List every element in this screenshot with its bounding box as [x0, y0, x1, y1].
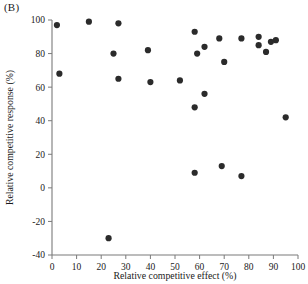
data-point — [192, 104, 198, 110]
figure-panel-b: (B) 0102030405060708090100-40-2002040608… — [0, 0, 308, 284]
y-tick-label: 0 — [40, 183, 45, 193]
data-point — [56, 71, 62, 77]
data-point — [201, 44, 207, 50]
scatter-plot: 0102030405060708090100-40-20020406080100… — [0, 0, 308, 284]
data-point — [147, 79, 153, 85]
data-point — [86, 19, 92, 25]
data-point — [177, 77, 183, 83]
x-tick-label: 10 — [72, 262, 82, 272]
data-point — [256, 42, 262, 48]
x-tick-label: 90 — [269, 262, 279, 272]
data-point — [115, 76, 121, 82]
data-point — [194, 50, 200, 56]
data-point — [283, 114, 289, 120]
data-point — [238, 173, 244, 179]
data-point — [192, 170, 198, 176]
data-point — [145, 47, 151, 53]
y-tick-label: 80 — [36, 49, 46, 59]
x-tick-label: 20 — [96, 262, 106, 272]
data-point — [216, 35, 222, 41]
y-axis-title: Relative competitive response (%) — [4, 70, 16, 205]
data-point — [238, 35, 244, 41]
data-point — [115, 20, 121, 26]
data-point — [54, 22, 60, 28]
data-point — [105, 235, 111, 241]
y-tick-label: 20 — [36, 150, 46, 160]
y-tick-label: 100 — [31, 15, 46, 25]
y-tick-label: -20 — [32, 217, 45, 227]
data-point — [219, 163, 225, 169]
data-point — [192, 29, 198, 35]
x-axis-title: Relative competitive effect (%) — [113, 270, 236, 282]
data-point — [256, 34, 262, 40]
x-tick-label: 80 — [244, 262, 254, 272]
y-tick-label: -40 — [32, 250, 45, 260]
y-tick-label: 60 — [36, 83, 46, 93]
y-tick-label: 40 — [36, 116, 46, 126]
x-tick-label: 100 — [291, 262, 306, 272]
data-points-group — [54, 19, 289, 242]
data-point — [263, 49, 269, 55]
data-point — [221, 59, 227, 65]
data-point — [110, 50, 116, 56]
data-point — [201, 91, 207, 97]
data-point — [273, 37, 279, 43]
x-tick-label: 0 — [50, 262, 55, 272]
